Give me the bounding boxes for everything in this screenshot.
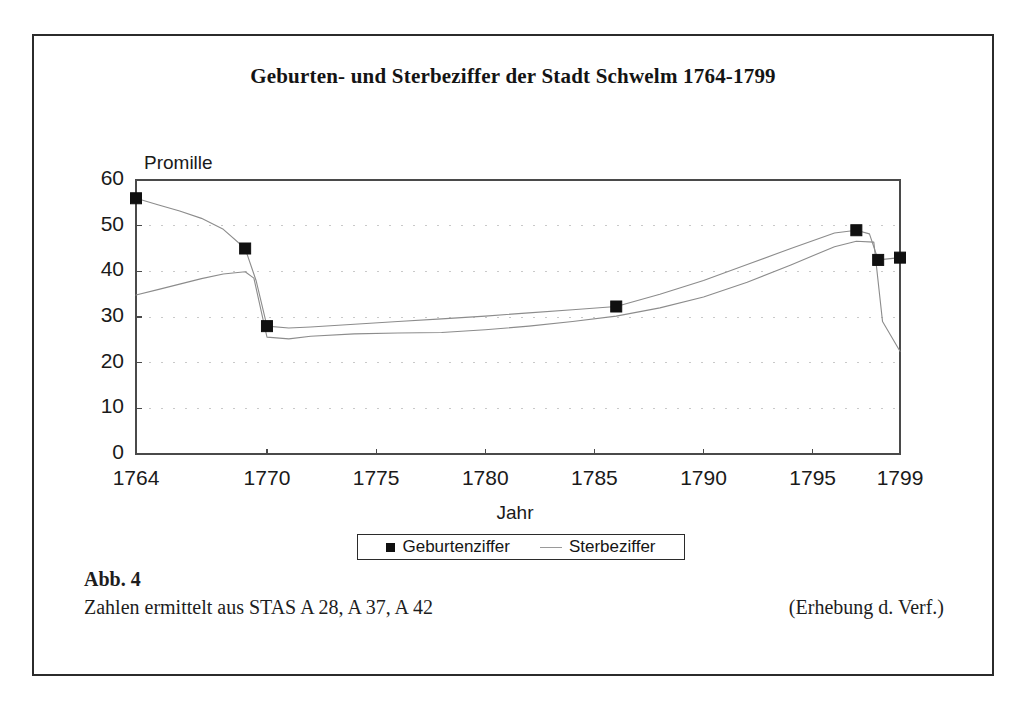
legend-label-geburtenziffer: Geburtenziffer [402,537,509,557]
y-axis-tick-label: 0 [84,440,124,464]
x-axis-tick-label: 1790 [664,466,744,490]
caption-attribution: (Erhebung d. Verf.) [789,592,944,622]
filled-square-icon [386,543,395,552]
figure-frame: Geburten- und Sterbeziffer der Stadt Sch… [32,34,994,676]
y-axis-title: Promille [144,152,213,174]
x-axis-tick-label: 1795 [773,466,853,490]
legend-entry-sterbeziffer: Sterbeziffer [540,537,656,557]
legend-label-sterbeziffer: Sterbeziffer [569,537,656,557]
y-axis-tick-label: 40 [84,257,124,281]
x-axis-tick-label: 1775 [336,466,416,490]
chart-legend: Geburtenziffer Sterbeziffer [357,534,685,560]
legend-entry-geburtenziffer: Geburtenziffer [386,537,509,557]
y-axis-tick-label: 50 [84,212,124,236]
x-axis-tick-label: 1770 [227,466,307,490]
figure-caption: Abb. 4 Zahlen ermittelt aus STAS A 28, A… [84,566,954,622]
x-axis-title: Jahr [34,502,996,524]
x-axis-tick-label: 1799 [860,466,940,490]
line-swatch-icon [540,547,562,548]
caption-row: Zahlen ermittelt aus STAS A 28, A 37, A … [84,592,954,622]
y-axis-tick-label: 20 [84,349,124,373]
x-axis-tick-label: 1780 [445,466,525,490]
y-axis-tick-label: 60 [84,166,124,190]
caption-figure-number: Abb. 4 [84,566,954,592]
y-axis-tick-label: 10 [84,394,124,418]
y-axis-tick-label: 30 [84,303,124,327]
x-axis-tick-label: 1764 [96,466,176,490]
caption-source: Zahlen ermittelt aus STAS A 28, A 37, A … [84,592,433,622]
x-axis-tick-label: 1785 [554,466,634,490]
